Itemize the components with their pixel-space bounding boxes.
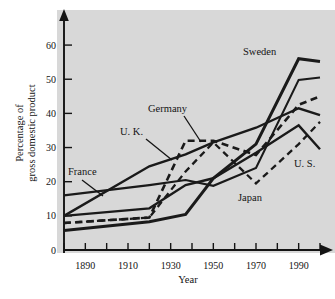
- y-tick-label-50: 50: [46, 74, 56, 85]
- y-axis-title-line1: Percentage of: [14, 104, 25, 162]
- y-tick-label-40: 40: [46, 108, 56, 119]
- y-tick-label-0: 0: [51, 245, 56, 256]
- x-axis-title: Year: [178, 274, 198, 285]
- series-label-france: France: [68, 166, 97, 177]
- y-tick-label-60: 60: [46, 40, 56, 51]
- series-label-japan: Japan: [238, 192, 263, 203]
- line-chart: 0102030405060189019101930195019701990 Sw…: [0, 0, 335, 299]
- series-label-germany: Germany: [148, 103, 188, 114]
- y-tick-label-30: 30: [46, 142, 56, 153]
- series-label-u-k: U. K.: [120, 126, 143, 137]
- y-tick-label-10: 10: [46, 210, 56, 221]
- x-tick-label-1890: 1890: [75, 260, 95, 271]
- x-tick-label-1990: 1990: [289, 260, 309, 271]
- series-label-u-s: U. S.: [294, 158, 315, 169]
- x-tick-label-1930: 1930: [161, 260, 181, 271]
- y-axis-title-line2: gross domestic product: [26, 84, 37, 181]
- x-tick-label-1950: 1950: [203, 260, 223, 271]
- plot-background: [57, 10, 335, 253]
- chart-figure: 0102030405060189019101930195019701990 Sw…: [0, 0, 335, 299]
- x-tick-label-1910: 1910: [118, 260, 138, 271]
- y-tick-label-20: 20: [46, 176, 56, 187]
- x-tick-label-1970: 1970: [246, 260, 266, 271]
- series-label-sweden: Sweden: [243, 46, 277, 57]
